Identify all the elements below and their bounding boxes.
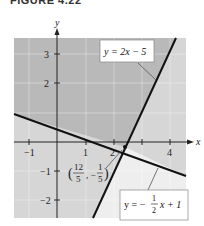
y-tick-label: −1 bbox=[40, 166, 51, 177]
y-tick-label: 2 bbox=[44, 78, 49, 89]
x-axis-label: x bbox=[195, 136, 201, 147]
x-axis-arrow-icon bbox=[187, 140, 194, 145]
svg-text:): ) bbox=[104, 166, 109, 182]
y-tick-label: −2 bbox=[40, 195, 51, 206]
chart: −1 1 2 4 3 2 −1 −2 x y y = 2x − 5 y = − … bbox=[0, 0, 204, 226]
line2-label-prefix: y = − bbox=[124, 199, 146, 210]
x-tick-label: 1 bbox=[83, 147, 88, 158]
svg-text:1: 1 bbox=[98, 162, 103, 172]
svg-text:(: ( bbox=[68, 166, 73, 182]
line2-label-suffix: x + 1 bbox=[159, 199, 181, 210]
line1-label: y = 2x − 5 bbox=[103, 46, 146, 57]
svg-text:5: 5 bbox=[98, 174, 103, 184]
y-axis-arrow-icon bbox=[55, 28, 60, 35]
intersection-point bbox=[123, 145, 127, 149]
line2-fraction-den: 2 bbox=[152, 206, 156, 215]
x-tick-label: 4 bbox=[167, 147, 172, 158]
y-tick-label: 3 bbox=[44, 49, 49, 60]
svg-text:, −: , − bbox=[86, 170, 96, 180]
line2-fraction-num: 1 bbox=[152, 194, 156, 203]
x-tick-label: −1 bbox=[24, 147, 35, 158]
svg-text:12: 12 bbox=[74, 162, 83, 172]
y-axis-label: y bbox=[54, 17, 60, 28]
svg-text:5: 5 bbox=[76, 174, 81, 184]
